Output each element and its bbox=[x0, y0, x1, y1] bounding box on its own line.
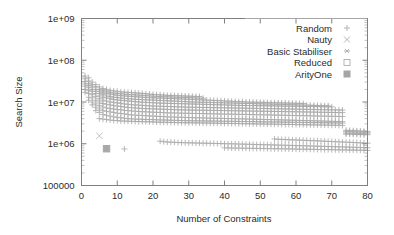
y-axis-title: Search Size bbox=[13, 76, 24, 127]
x-tick-label: 60 bbox=[291, 190, 302, 201]
y-tick-label: 1e+08 bbox=[48, 55, 75, 66]
x-axis-title: Number of Constraints bbox=[176, 213, 271, 224]
legend-label-reduced: Reduced bbox=[294, 57, 332, 68]
legend-label-random: Random bbox=[296, 23, 332, 34]
x-tick-label: 40 bbox=[219, 190, 230, 201]
scatter-chart: 1000001e+061e+071e+081e+09 0102030405060… bbox=[0, 0, 394, 235]
series-arityone bbox=[103, 146, 109, 152]
y-tick-label: 1e+07 bbox=[48, 97, 75, 108]
legend-marker-square-filled bbox=[344, 71, 350, 77]
x-tick-label: 20 bbox=[148, 190, 159, 201]
chart-root: 1000001e+061e+071e+081e+09 0102030405060… bbox=[0, 0, 394, 235]
legend-label-arityone: ArityOne bbox=[295, 69, 332, 80]
data-point-square-filled bbox=[344, 71, 350, 77]
y-tick-label: 1e+09 bbox=[48, 13, 75, 24]
y-tick-label: 100000 bbox=[43, 180, 75, 191]
y-tick-label: 1e+06 bbox=[48, 138, 75, 149]
x-tick-label: 10 bbox=[112, 190, 123, 201]
data-point-square-filled bbox=[103, 146, 109, 152]
x-tick-label: 80 bbox=[362, 190, 373, 201]
x-tick-label: 50 bbox=[255, 190, 266, 201]
x-tick-label: 30 bbox=[183, 190, 194, 201]
x-tick-label: 0 bbox=[79, 190, 84, 201]
x-tick-label: 70 bbox=[326, 190, 337, 201]
legend-label-nauty: Nauty bbox=[307, 34, 332, 45]
legend-label-basic-stabiliser: Basic Stabiliser bbox=[267, 46, 332, 57]
